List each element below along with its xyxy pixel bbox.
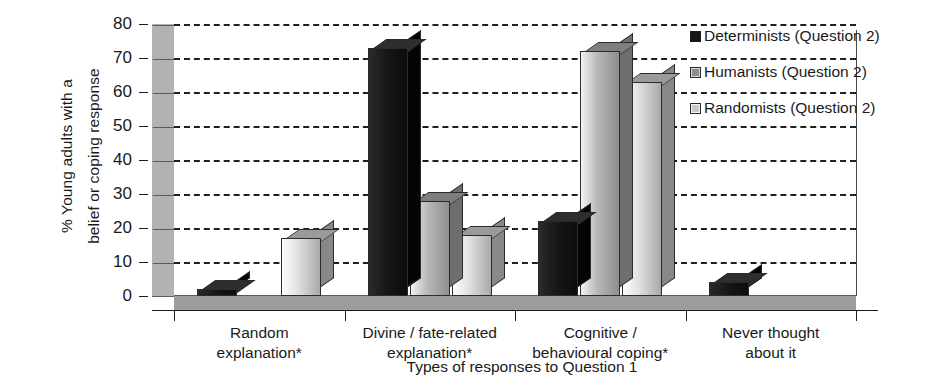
bar-chart-figure: % Young adults with a belief or coping r… (0, 0, 944, 385)
bar (197, 289, 237, 296)
legend-item: Randomists (Question 2) (690, 90, 944, 126)
y-axis-tick-label: 0 (90, 287, 132, 304)
y-axis-wall (152, 24, 175, 296)
legend-label: Humanists (Question 2) (704, 63, 867, 81)
gridline (174, 126, 856, 128)
y-axis-tick-label: 40 (90, 151, 132, 168)
y-axis-tick-mark (139, 228, 148, 229)
bar-front-face (538, 221, 578, 296)
gridline (174, 262, 856, 264)
x-axis-tick-mark (686, 311, 687, 321)
y-axis-tick-mark (139, 262, 148, 263)
bar (709, 282, 749, 296)
y-axis-tick-label: 50 (90, 117, 132, 134)
y-axis-tick-label: 80 (90, 15, 132, 32)
y-axis-tick-mark (139, 58, 148, 59)
bar (368, 48, 408, 296)
legend-item: Determinists (Question 2) (690, 18, 944, 54)
legend-swatch-icon (690, 31, 701, 42)
x-axis-tick-mark (345, 311, 346, 321)
legend-item: Humanists (Question 2) (690, 54, 944, 90)
legend-label: Determinists (Question 2) (704, 27, 880, 45)
y-axis-tick-label: 60 (90, 83, 132, 100)
y-axis-tick-label: 20 (90, 219, 132, 236)
gridline (174, 160, 856, 162)
y-axis-tick-mark (139, 24, 148, 25)
y-axis-tick-label: 70 (90, 49, 132, 66)
y-axis-tick-mark (139, 296, 148, 297)
y-axis-tick-mark (139, 194, 148, 195)
y-axis-tick-mark (139, 126, 148, 127)
y-axis-tick-mark (139, 160, 148, 161)
chart-legend: Determinists (Question 2)Humanists (Ques… (690, 18, 944, 126)
x-axis-category-label: Never thoughtabout it (666, 323, 877, 363)
bar-side-face (620, 33, 633, 287)
bar-front-face (709, 282, 749, 296)
bar-front-face (368, 48, 408, 296)
bar-front-face (281, 238, 321, 296)
bar-front-face (197, 289, 237, 296)
x-axis-tick-mark (174, 311, 175, 321)
gridline (174, 194, 856, 196)
legend-swatch-icon (690, 67, 701, 78)
x-axis-tick-mark (856, 311, 857, 321)
bar-side-face (662, 64, 675, 287)
x-axis-category-label-line: Never thought (666, 323, 877, 343)
legend-label: Randomists (Question 2) (704, 99, 875, 117)
plot-floor (174, 295, 856, 310)
bar (538, 221, 578, 296)
x-axis-title: Types of responses to Question 1 (0, 358, 944, 376)
x-axis-tick-mark (515, 311, 516, 321)
y-axis-tick-label: 10 (90, 253, 132, 270)
y-axis-title-line-1: % Young adults with a (53, 11, 80, 301)
gridline (174, 228, 856, 230)
y-axis-tick-label: 30 (90, 185, 132, 202)
bar (281, 238, 321, 296)
y-axis-tick-mark (139, 92, 148, 93)
legend-swatch-icon (690, 103, 701, 114)
bar-side-face (408, 30, 421, 287)
